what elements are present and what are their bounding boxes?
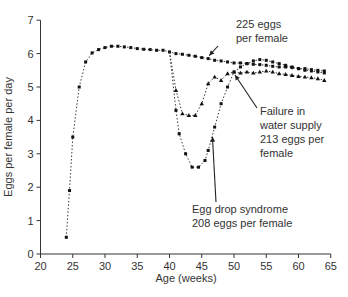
y-tick-label: 3: [27, 148, 33, 160]
data-point: [78, 86, 81, 89]
data-point: [97, 48, 100, 51]
x-tick-label: 50: [228, 260, 240, 272]
data-point: [200, 56, 203, 59]
data-point: [220, 102, 223, 105]
data-point: [194, 55, 197, 58]
data-point: [225, 71, 229, 75]
annotation: 225 eggsper female: [209, 18, 288, 56]
x-tick-label: 20: [34, 260, 46, 272]
x-tick-label: 35: [131, 260, 143, 272]
data-point: [116, 45, 119, 48]
data-point: [191, 166, 194, 169]
data-point: [187, 54, 190, 57]
data-point: [213, 126, 216, 129]
data-point: [303, 69, 306, 72]
y-tick-label: 4: [27, 114, 33, 126]
data-point: [181, 53, 184, 56]
x-tick-label: 55: [260, 260, 272, 272]
data-point: [291, 65, 294, 68]
data-point: [142, 48, 145, 51]
x-tick-label: 65: [325, 260, 337, 272]
data-point: [184, 152, 187, 155]
data-point: [220, 59, 223, 62]
data-point: [91, 51, 94, 54]
data-point: [197, 166, 200, 169]
data-point: [245, 62, 248, 65]
data-point: [297, 67, 300, 70]
data-point: [226, 60, 229, 63]
data-point: [322, 78, 326, 82]
data-point: [180, 111, 184, 115]
data-point: [265, 64, 268, 67]
data-point: [309, 75, 313, 79]
annotation-text: Egg drop syndrome: [192, 203, 288, 215]
annotation-text: Failure in: [260, 105, 305, 117]
data-point: [310, 69, 313, 72]
data-point: [239, 65, 242, 68]
data-point: [284, 64, 287, 67]
data-point: [316, 76, 320, 80]
data-point: [84, 60, 87, 63]
x-tick-label: 40: [163, 260, 175, 272]
data-point: [258, 63, 261, 66]
data-point: [303, 75, 307, 79]
y-axis-title: Eggs per female per day: [2, 77, 14, 197]
data-point: [226, 86, 229, 89]
data-point: [123, 45, 126, 48]
data-point: [278, 65, 281, 68]
data-point: [155, 49, 158, 52]
data-point: [178, 132, 181, 135]
y-tick-label: 5: [27, 81, 33, 93]
data-point: [271, 60, 274, 63]
annotation: Failure inwater supply213 eggs perfemale: [235, 75, 325, 159]
annotation-text: 225 eggs: [236, 18, 282, 30]
chart: 01234567 20253035404550556065 Eggs per f…: [0, 0, 348, 297]
data-point: [203, 159, 206, 162]
data-point: [323, 71, 326, 74]
arrow-icon: [235, 75, 240, 81]
data-point: [149, 48, 152, 51]
data-point: [174, 88, 178, 92]
x-axis-title: Age (weeks): [155, 272, 216, 284]
data-point: [174, 109, 177, 112]
data-point: [316, 70, 319, 73]
data-point: [264, 69, 268, 73]
annotation-text: per female: [236, 32, 288, 44]
annotation-text: 208 eggs per female: [192, 217, 292, 229]
data-point: [110, 45, 113, 48]
y-tick-label: 7: [27, 14, 33, 26]
data-point: [265, 59, 268, 62]
y-tick-label: 0: [27, 248, 33, 260]
data-point: [65, 236, 68, 239]
y-axis: 01234567: [27, 14, 40, 260]
data-point: [207, 149, 210, 152]
data-point: [245, 70, 249, 74]
annotation-text: female: [260, 147, 293, 159]
data-point: [271, 65, 274, 68]
y-tick-label: 1: [27, 215, 33, 227]
data-point: [174, 52, 177, 55]
data-point: [71, 136, 74, 139]
data-point: [68, 189, 71, 192]
data-point: [207, 57, 210, 60]
data-point: [162, 49, 165, 52]
data-point: [239, 61, 242, 64]
data-point: [136, 47, 139, 50]
annotation-text: 213 eggs per: [260, 133, 325, 145]
data-point: [200, 101, 204, 105]
y-tick-label: 6: [27, 48, 33, 60]
data-point: [258, 58, 261, 61]
x-tick-label: 25: [67, 260, 79, 272]
x-tick-label: 45: [196, 260, 208, 272]
data-point: [233, 70, 236, 73]
data-point: [252, 63, 255, 66]
x-tick-label: 60: [292, 260, 304, 272]
data-point: [252, 59, 255, 62]
annotations: 225 eggsper femaleFailure inwater supply…: [192, 18, 325, 229]
data-point: [213, 59, 216, 62]
data-point: [129, 46, 132, 49]
data-point: [258, 70, 262, 74]
data-point: [104, 46, 107, 49]
data-point: [212, 75, 216, 79]
x-axis: 20253035404550556065: [34, 254, 337, 272]
